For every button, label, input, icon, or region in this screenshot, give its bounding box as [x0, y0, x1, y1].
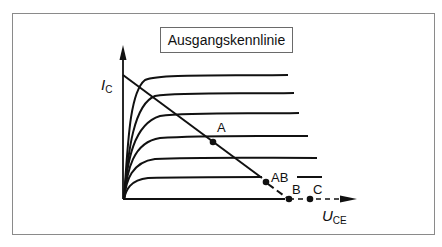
point-b-label: B: [292, 182, 301, 197]
point-ab-label: AB: [271, 170, 288, 185]
point-a-label: A: [217, 120, 226, 135]
curve-4: [124, 136, 308, 199]
characteristic-curves: [124, 75, 322, 199]
curve-3: [124, 113, 299, 199]
x-axis-label: UCE: [322, 207, 347, 226]
curve-6-left: [124, 177, 262, 199]
y-axis-label: IC: [101, 76, 112, 95]
point-c-label: C: [313, 182, 322, 197]
output-characteristic-diagram: IC UCE A AB B C: [0, 0, 442, 247]
point-a-dot: [210, 139, 217, 146]
point-ab-dot: [263, 179, 270, 186]
